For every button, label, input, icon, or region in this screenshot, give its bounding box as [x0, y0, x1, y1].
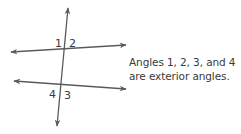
angle-label-2: 2: [69, 37, 76, 50]
caption-line-2: are exterior angles.: [129, 69, 241, 83]
caption-line-1: Angles 1, 2, 3, and 4: [129, 55, 241, 69]
angle-label-1: 1: [55, 37, 62, 50]
angle-label-3: 3: [64, 89, 71, 102]
transversal-line: [57, 8, 68, 126]
caption: Angles 1, 2, 3, and 4 are exterior angle…: [129, 55, 241, 83]
angle-label-4: 4: [49, 88, 56, 101]
bottom-line: [14, 81, 126, 89]
